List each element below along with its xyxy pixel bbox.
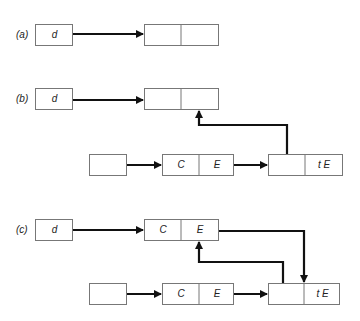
panel-label-a: (a) — [16, 29, 28, 41]
chain-cell-c: C — [163, 159, 199, 171]
var-box-d: d — [36, 224, 73, 236]
chain-cell-te: t E — [306, 159, 342, 171]
var-box-d: d — [36, 29, 73, 41]
panel-label-b: (b) — [16, 93, 28, 105]
var-box-d: d — [36, 93, 73, 105]
chain-cell-e: E — [200, 159, 234, 171]
target-cell-c: C — [145, 224, 181, 236]
pointer-diagram: (a) d (b) d C E t E (c) d C E C E t E — [0, 0, 360, 321]
chain-cell-e: E — [200, 288, 234, 300]
chain-cell-te: t E — [305, 288, 340, 300]
target-cell-e: E — [182, 224, 218, 236]
panel-label-c: (c) — [16, 224, 28, 236]
chain-cell-c: C — [163, 288, 199, 300]
